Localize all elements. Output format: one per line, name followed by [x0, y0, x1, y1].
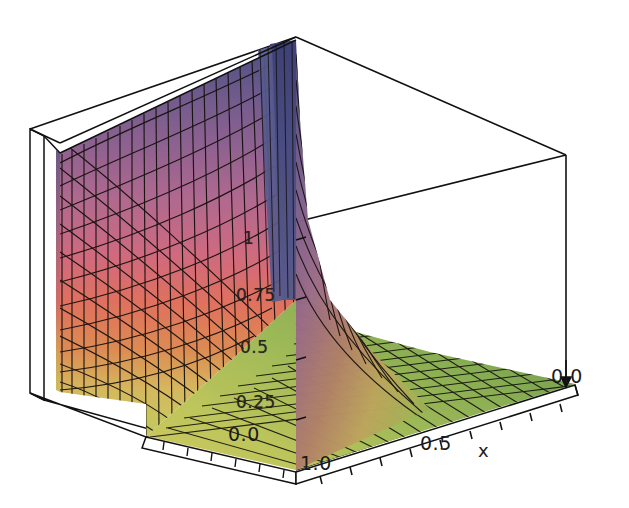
z-axis-tick-label-1: 1 [243, 228, 254, 248]
box-left-edge-strip [30, 129, 44, 400]
plot-canvas [0, 0, 629, 508]
x-axis-tick-label-half: 0.5 [420, 432, 452, 454]
box-floor-back-right-edge [296, 155, 566, 222]
y-axis-tick-label-1: 1.0 [300, 452, 332, 474]
z-axis-tick-label-075: 0.75 [236, 285, 276, 305]
surface-plot-figure: 0.0 1.0 0.5 0.0 x 1 0.75 0.5 0.25 [0, 0, 629, 508]
box-top-back-right-edge [296, 37, 566, 155]
x-axis-title: x [478, 440, 489, 461]
y-axis-tick-label-0: 0.0 [228, 423, 260, 445]
x-axis-tick-label-zero: 0.0 [551, 365, 583, 387]
z-axis-tick-label-025: 0.25 [236, 392, 276, 412]
z-axis-tick-label-05: 0.5 [240, 337, 269, 357]
